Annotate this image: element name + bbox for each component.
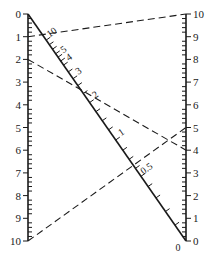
left-scale-label: 7 [16, 167, 22, 179]
diagonal-tick [148, 184, 152, 187]
isopleth-2 [28, 59, 186, 150]
right-scale-label: 4 [193, 144, 199, 156]
diagonal-scale-label: 1 [116, 126, 126, 138]
right-scale-label: 3 [193, 167, 199, 179]
nomogram-diagram: 012345678910 012345678910 10543210.50 [0, 0, 212, 264]
right-scale-label: 10 [193, 8, 205, 20]
diagonal-tick [156, 195, 160, 198]
left-scale-label: 4 [16, 99, 22, 111]
left-scale-label: 5 [16, 122, 22, 134]
left-scale-axis: 012345678910 [10, 8, 32, 247]
diagonal-tick [61, 58, 65, 61]
left-scale-label: 6 [16, 144, 22, 156]
right-scale-label: 5 [193, 122, 199, 134]
diagonal-scale-label: 0.5 [138, 160, 155, 176]
diagonal-tick [52, 46, 56, 49]
diagonal-tick [116, 137, 120, 140]
diagonal-tick [64, 62, 68, 65]
diagonal-tick [78, 83, 82, 86]
diagonal-tick [109, 127, 113, 130]
diagonal-tick [49, 42, 53, 45]
right-scale-label: 2 [193, 190, 199, 202]
diagonal-axis-line [28, 14, 186, 241]
right-scale-label: 9 [193, 31, 199, 43]
left-scale-label: 8 [16, 190, 22, 202]
right-scale-axis: 012345678910 [182, 8, 205, 247]
diagonal-tick [90, 100, 94, 103]
diagonal-tick [165, 209, 169, 212]
diagonal-tick [129, 156, 133, 159]
diagonal-scale-label: 4 [64, 51, 74, 63]
diagonal-tick [175, 222, 179, 225]
diagonal-scale-label: 3 [73, 65, 83, 77]
diagonal-scale-label: 2 [90, 89, 100, 101]
diagonal-tick [123, 147, 127, 150]
diagonal-tick [56, 51, 60, 54]
left-scale-label: 9 [16, 212, 22, 224]
diagonal-tick [102, 118, 106, 121]
right-scale-label: 7 [193, 76, 199, 88]
left-scale-label: 0 [16, 8, 22, 20]
left-scale-label: 2 [16, 53, 22, 65]
right-scale-label: 6 [193, 99, 199, 111]
diagonal-tick [73, 76, 77, 79]
right-scale-label: 1 [193, 212, 199, 224]
diagonal-tick [68, 69, 72, 72]
left-scale-label: 10 [10, 235, 22, 247]
right-scale-label: 8 [193, 53, 199, 65]
diagonal-tick [96, 109, 100, 112]
diagonal-tick [58, 54, 62, 57]
diagonal-scale-label: 0 [176, 242, 181, 253]
isopleth-3 [28, 128, 186, 242]
diagonal-scale-axis: 10543210.50 [28, 14, 186, 253]
left-scale-label: 1 [16, 31, 22, 43]
right-scale-label: 0 [193, 235, 199, 247]
left-scale-label: 3 [16, 76, 22, 88]
